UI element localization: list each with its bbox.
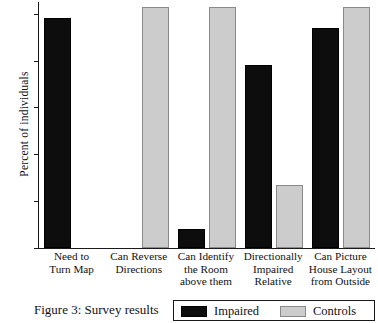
bar-impaired [44, 18, 71, 248]
y-tick-mark [34, 201, 38, 202]
y-tick-mark [34, 248, 38, 249]
bars-layer [39, 2, 375, 248]
bar-impaired [312, 28, 339, 248]
legend-entry-controls: Controls [280, 304, 356, 318]
x-axis-category-labels: Need to Turn MapCan Reverse DirectionsCa… [38, 250, 375, 302]
legend-label-controls: Controls [313, 304, 356, 319]
legend-label-impaired: Impaired [214, 304, 259, 319]
legend-swatch-impaired-icon [181, 306, 207, 317]
x-axis-label: Can Picture House Layout from Outside [301, 250, 378, 288]
bar-impaired [245, 65, 272, 248]
plot-area: 020406080100 [38, 2, 375, 249]
y-tick-mark [34, 154, 38, 155]
y-tick-mark [34, 107, 38, 108]
bar-impaired [178, 229, 205, 248]
x-axis-line [38, 248, 375, 249]
y-axis-title: Percent of individuals [18, 34, 30, 214]
legend-swatch-controls-icon [280, 306, 306, 317]
chart-legend: Impaired Controls [173, 300, 375, 321]
y-tick-mark [34, 14, 38, 15]
figure-survey-results: Percent of individuals 020406080100 Need… [0, 0, 378, 323]
bar-controls [276, 185, 303, 248]
figure-caption: Figure 3: Survey results [34, 302, 159, 318]
bar-controls [343, 7, 370, 248]
legend-entry-impaired: Impaired [181, 304, 259, 318]
bar-controls [142, 7, 169, 248]
y-tick-mark [34, 61, 38, 62]
bar-controls [209, 7, 236, 248]
